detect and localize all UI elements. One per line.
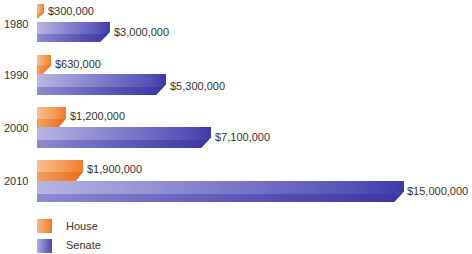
category-label-1990: 1990 bbox=[4, 69, 28, 81]
bar-house-1990 bbox=[37, 55, 51, 74]
value-label-senate-1990: $5,300,000 bbox=[170, 80, 225, 92]
legend-swatch-senate bbox=[37, 239, 52, 253]
legend-swatch-house bbox=[37, 219, 52, 233]
value-label-senate-2010: $15,000,000 bbox=[407, 185, 468, 197]
value-label-house-1980: $300,000 bbox=[48, 5, 94, 17]
value-label-house-2010: $1,900,000 bbox=[87, 163, 142, 175]
category-label-1980: 1980 bbox=[4, 18, 28, 30]
category-label-2000: 2000 bbox=[4, 122, 28, 134]
value-label-house-2000: $1,200,000 bbox=[70, 110, 125, 122]
bar-house-2000 bbox=[37, 107, 66, 128]
bar-house-2010 bbox=[37, 160, 83, 182]
value-label-senate-2000: $7,100,000 bbox=[215, 131, 270, 143]
legend-label-house: House bbox=[66, 220, 98, 232]
bar-senate-2000 bbox=[37, 127, 211, 148]
bar-chart: 1980 $300,000 $3,000,000 1990 $630,000 $… bbox=[0, 0, 472, 254]
bar-senate-2010 bbox=[37, 181, 404, 202]
category-label-2010: 2010 bbox=[4, 175, 28, 187]
value-label-house-1990: $630,000 bbox=[55, 58, 101, 70]
bar-house-1980 bbox=[37, 4, 44, 20]
value-label-senate-1980: $3,000,000 bbox=[114, 26, 169, 38]
bar-senate-1990 bbox=[37, 74, 166, 95]
legend-label-senate: Senate bbox=[66, 239, 101, 251]
bar-senate-1980 bbox=[37, 22, 110, 42]
